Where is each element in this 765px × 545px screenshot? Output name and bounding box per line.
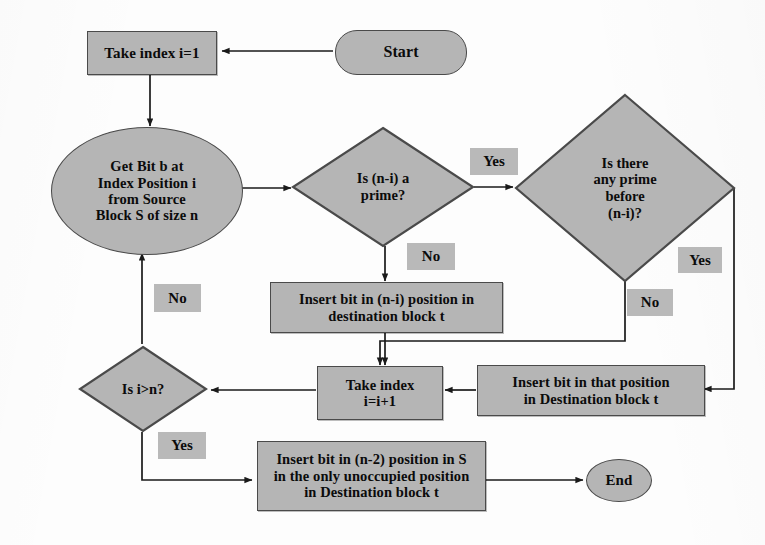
- diamond-shape: [78, 345, 208, 433]
- node-is-prime[interactable]: Is (n-i) a prime?: [291, 126, 475, 248]
- edge-label-is-prime-no: No: [407, 243, 455, 270]
- diamond-shape: [291, 126, 475, 248]
- node-take-index-1[interactable]: Take index i=1: [87, 31, 217, 75]
- edge-label-any-prime-yes: Yes: [678, 247, 722, 273]
- node-is-i-gt-n[interactable]: Is i>n?: [78, 345, 208, 433]
- node-take-index-inc[interactable]: Take index i=i+1: [317, 366, 443, 420]
- edge-label-is-i-gt-n-yes: Yes: [158, 432, 206, 459]
- node-insert-that-pos[interactable]: Insert bit in that position in Destinati…: [477, 365, 705, 416]
- flowchart-canvas: Start Take index i=1 Get Bit b at Index …: [0, 0, 765, 545]
- node-insert-ni[interactable]: Insert bit in (n-i) position in destinat…: [270, 282, 503, 333]
- node-get-bit[interactable]: Get Bit b at Index Position i from Sourc…: [51, 127, 243, 255]
- edge-label-text: No: [422, 249, 440, 264]
- edge-label-any-prime-no: No: [627, 289, 673, 316]
- node-insert-n2-label: Insert bit in (n-2) position in S in the…: [274, 451, 470, 500]
- node-take-index-inc-label: Take index i=i+1: [346, 377, 415, 410]
- node-start[interactable]: Start: [335, 30, 467, 75]
- edge-label-text: Yes: [483, 154, 505, 169]
- edge-label-text: No: [641, 295, 659, 310]
- node-insert-that-pos-label: Insert bit in that position in Destinati…: [512, 374, 669, 407]
- node-end[interactable]: End: [586, 459, 652, 502]
- edge-label-text: Yes: [689, 253, 711, 268]
- node-take-index-1-label: Take index i=1: [104, 45, 199, 62]
- node-insert-n2[interactable]: Insert bit in (n-2) position in S in the…: [257, 441, 486, 511]
- edge-label-is-prime-yes: Yes: [470, 148, 518, 175]
- node-get-bit-label: Get Bit b at Index Position i from Sourc…: [96, 158, 198, 224]
- node-start-label: Start: [383, 43, 418, 61]
- edge-label-text: Yes: [171, 438, 193, 453]
- node-end-label: End: [606, 472, 633, 489]
- edge-label-text: No: [168, 291, 186, 306]
- node-insert-ni-label: Insert bit in (n-i) position in destinat…: [299, 291, 474, 324]
- edge-label-is-i-gt-n-no: No: [154, 284, 201, 312]
